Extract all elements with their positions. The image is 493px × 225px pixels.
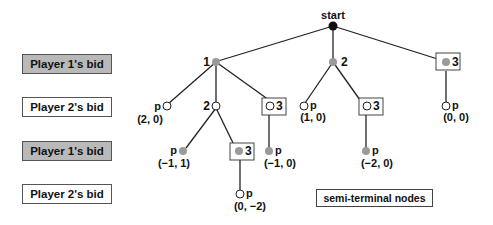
player1-node [442,58,450,66]
bid-3-label: 3 [245,144,252,158]
bid-1-label: 1 [203,55,210,69]
bid-3-label: 3 [276,99,283,113]
payoff-label: (0, 0) [443,111,469,123]
pass-label: p [246,187,253,199]
player1-node [329,58,337,66]
root-node [329,22,338,31]
player1-node [179,147,187,155]
bid-2-label: 2 [203,99,210,113]
start-label: start [321,9,345,21]
player1-node [212,58,220,66]
bid-3-label: 3 [452,55,459,69]
player2-node [363,102,371,110]
bid-2-label: 2 [341,55,348,69]
pass-label: p [310,99,317,111]
player2-node [163,102,171,110]
payoff-label: (−1, 1) [158,157,190,169]
pass-label: p [452,99,459,111]
payoff-label: (1, 0) [300,111,326,123]
pass-label: p [154,100,161,112]
player2-node [442,102,450,110]
player2-node [212,102,220,110]
payoff-label: (−2, 0) [361,157,393,169]
player2-node [300,102,308,110]
player2-node [266,102,274,110]
player1-node [235,147,243,155]
payoff-label: (2, 0) [137,113,163,125]
player1-node [265,147,273,155]
player2-node [236,190,244,198]
bid-3-label: 3 [373,99,380,113]
pass-label: p [170,144,177,156]
payoff-label: (0, −2) [234,200,266,212]
pass-label: p [275,144,282,156]
semi-terminal-nodes-legend: semi-terminal nodes [316,189,433,207]
pass-label: p [372,144,379,156]
payoff-label: (−1, 0) [264,157,296,169]
player1-node [362,147,370,155]
